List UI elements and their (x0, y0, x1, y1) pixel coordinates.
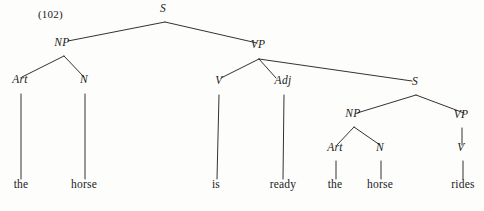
node-n2: N (376, 142, 384, 154)
terminal-word-w-rides: rides (451, 179, 474, 191)
node-n1: N (80, 74, 88, 86)
node-s2: S (412, 76, 418, 88)
terminal-word-w-is: is (212, 179, 220, 191)
terminal-word-w-horse-1: horse (71, 179, 97, 191)
tree-edge-s2-np2 (357, 95, 416, 113)
terminal-word-w-horse-2: horse (367, 179, 393, 191)
terminal-word-w-ready: ready (270, 179, 297, 191)
node-np1: NP (54, 37, 69, 49)
node-vp1: VP (251, 39, 266, 51)
tree-edge-vp1-v1 (221, 59, 259, 78)
tree-edge-adj1-w-ready (283, 95, 284, 179)
node-vp2: VP (454, 109, 469, 121)
tree-edge-vp1-adj1 (259, 59, 276, 78)
node-v2: V (457, 142, 464, 154)
node-adj1: Adj (275, 75, 292, 87)
example-number: (102) (38, 9, 63, 20)
tree-edge-s1-vp1 (165, 22, 257, 43)
tree-edge-np1-art1 (22, 56, 64, 77)
node-s1: S (160, 3, 166, 15)
node-v1: V (215, 75, 222, 87)
terminal-word-w-the-2: the (328, 179, 343, 191)
node-art2: Art (327, 142, 343, 154)
terminal-word-w-the-1: the (14, 179, 29, 191)
syntax-tree-figure: SNPVPArtNVAdjSNPVPArtNVthehorseisreadyth… (0, 0, 484, 211)
node-np2: NP (345, 108, 360, 120)
node-art1: Art (12, 74, 28, 86)
tree-edge-s1-np1 (68, 22, 165, 41)
tree-edge-v1-w-is (217, 95, 219, 179)
